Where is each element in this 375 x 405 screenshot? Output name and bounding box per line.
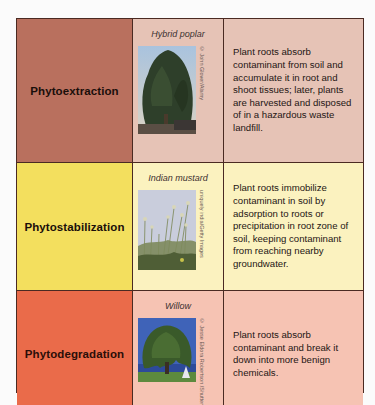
description-cell: Plant roots immobilize contaminant in so… — [224, 163, 363, 291]
plant-name: Indian mustard — [138, 173, 218, 183]
description-cell: Plant roots absorb contaminant and break… — [224, 291, 363, 405]
poplar-tree-photo — [138, 46, 196, 134]
process-cell-phytoextraction: Phytoextraction — [17, 19, 133, 163]
process-description: Plant roots immobilize contaminant in so… — [233, 182, 353, 270]
plant-name: Willow — [138, 301, 218, 311]
process-description: Plant roots absorb contaminant from soil… — [233, 46, 353, 134]
photo-credit: © Jesse Eldora Robertson /Shutterstock — [198, 318, 205, 405]
description-cell: Plant roots absorb contaminant from soil… — [224, 19, 363, 163]
plant-name: Hybrid poplar — [138, 29, 218, 39]
process-name: Phytodegradation — [25, 348, 124, 360]
process-name: Phytostabilization — [24, 221, 124, 233]
plant-cell-indian-mustard: Indian mustard — [133, 163, 224, 291]
plant-cell-willow: Willow © Jesse Eldora Robertson /Shutter… — [133, 291, 224, 405]
process-cell-phytodegradation: Phytodegradation — [17, 291, 133, 405]
process-description: Plant roots absorb contaminant and break… — [233, 329, 353, 379]
willow-tree-photo — [138, 318, 196, 382]
photo-credit: © John Glover/Alamy — [198, 46, 205, 134]
photo-credit: uniquely india/Getty Images — [198, 190, 205, 270]
mustard-plant-photo — [138, 190, 196, 270]
process-name: Phytoextraction — [30, 85, 118, 97]
phytoremediation-table: Phytoextraction Hybrid poplar — [16, 18, 364, 393]
process-cell-phytostabilization: Phytostabilization — [17, 163, 133, 291]
plant-cell-hybrid-poplar: Hybrid poplar — [133, 19, 224, 163]
